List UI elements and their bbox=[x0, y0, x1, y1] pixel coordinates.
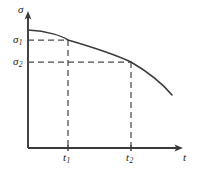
y-tick-label-sigma-1-subscript: 1 bbox=[18, 38, 22, 47]
x-tick-label-t-1: t1 bbox=[63, 152, 70, 164]
x-tick-label-t-2: t2 bbox=[126, 152, 133, 164]
x-axis-label: t bbox=[183, 152, 186, 163]
y-axis-label-text: σ bbox=[18, 3, 23, 15]
diagram-canvas bbox=[0, 0, 198, 173]
stress-time-diagram: σ σ1 σ2 t1 t2 t bbox=[0, 0, 198, 173]
x-tick-label-t-1-subscript: 1 bbox=[66, 156, 70, 165]
x-axis-label-text: t bbox=[183, 151, 186, 163]
y-axis-label: σ bbox=[18, 4, 23, 15]
x-tick-label-t-2-subscript: 2 bbox=[129, 156, 133, 165]
y-tick-label-sigma-1: σ1 bbox=[13, 34, 23, 46]
y-tick-label-sigma-2: σ2 bbox=[13, 56, 23, 68]
y-tick-label-sigma-2-subscript: 2 bbox=[18, 60, 22, 69]
